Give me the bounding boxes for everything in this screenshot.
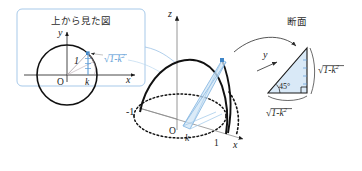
inset-radius-label: 1 — [74, 55, 79, 66]
solid-outline-front — [140, 60, 227, 134]
cross-section-right-label: √1-k2 — [318, 64, 344, 75]
figure-canvas: 上から見た図 1 √1-k2 — [0, 0, 362, 171]
cross-section-panel: 断面 45° y √1-k2 √1-k2 — [257, 16, 344, 118]
main-ground-edge-left — [139, 108, 177, 119]
right-radical-inner: 1-k — [324, 65, 337, 75]
inset-origin-label: O — [57, 77, 64, 87]
main-z-label: z — [167, 8, 172, 19]
main-one-label: 1 — [214, 138, 219, 148]
inset-x-label: x — [125, 74, 131, 85]
solid-outline-inner — [222, 60, 230, 133]
inset-panel: 上から見た図 1 √1-k2 — [17, 9, 145, 105]
right-side-brace — [310, 48, 315, 94]
cross-section-slice — [183, 58, 226, 129]
inset-radical-exp: 2 — [122, 53, 125, 59]
main-x-label: x — [232, 139, 238, 150]
inset-y-label: y — [57, 27, 63, 38]
right-radical-exp: 2 — [336, 64, 339, 70]
bottom-radical-exp: 2 — [284, 107, 287, 113]
base-ellipse-front — [134, 116, 226, 138]
inset-title: 上から見た図 — [51, 15, 111, 26]
cross-section-y-axis — [257, 62, 277, 71]
cross-section-bottom-label: √1-k2 — [266, 107, 292, 118]
cross-section-title: 断面 — [287, 16, 307, 27]
main-origin-label: O — [169, 126, 176, 136]
angle-label: 45° — [279, 82, 290, 91]
cross-section-y-label: y — [262, 49, 268, 60]
main-minus-one-label: -1 — [126, 106, 134, 117]
inset-radical-inner: 1-k — [110, 54, 123, 64]
bottom-side-brace — [268, 96, 307, 101]
bottom-radical-inner: 1-k — [272, 108, 285, 118]
base-ellipse-back — [134, 94, 226, 116]
